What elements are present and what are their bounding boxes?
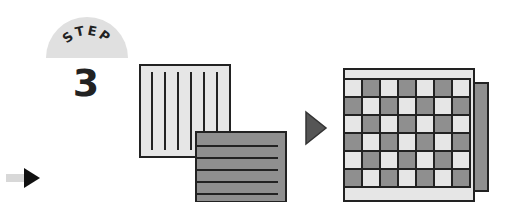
horizontal-striped-sheet-icon <box>196 132 286 202</box>
step-number: 3 <box>60 64 112 102</box>
woven-checkerboard-sheet-icon <box>340 65 505 205</box>
step-badge: STEP <box>44 16 130 58</box>
right-triangle-arrow-icon <box>304 110 328 146</box>
striped-sheets-icon <box>130 62 300 202</box>
next-arrow-icon[interactable] <box>4 166 44 190</box>
